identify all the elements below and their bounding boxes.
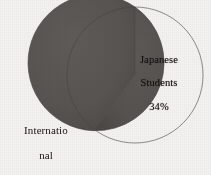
pie-label-japanese-name: Japanese (126, 54, 192, 66)
pie-label-japanese-name-cont: Students (126, 77, 192, 89)
pie-chart-figure: Japanese Students 34% Internatio nal Stu… (0, 0, 211, 175)
pie-label-international-name-cont: nal (4, 149, 88, 161)
pie-label-japanese-value: 34% (126, 101, 192, 113)
pie-label-japanese-students: Japanese Students 34% (126, 42, 192, 124)
pie-label-international-students: Internatio nal Students 66% (4, 112, 88, 175)
pie-label-international-name-cont2: Students (4, 174, 88, 175)
pie-label-international-name: Internatio (4, 124, 88, 136)
